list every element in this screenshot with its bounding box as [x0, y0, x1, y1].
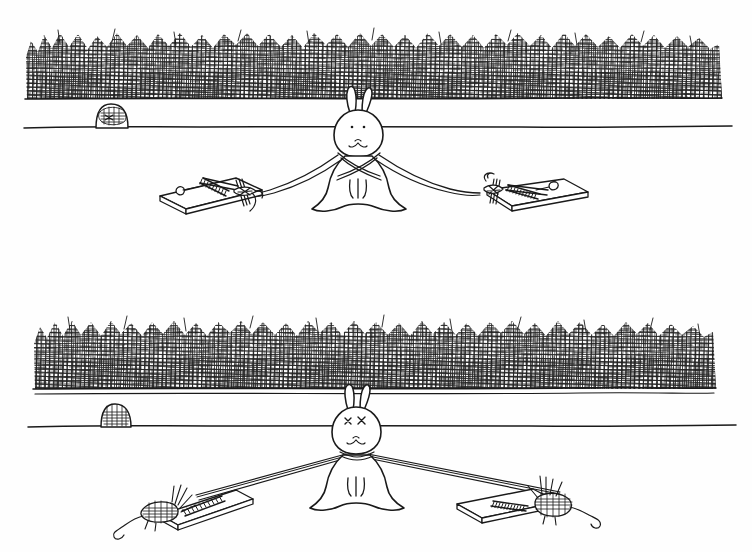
rabbit-ear-left [347, 87, 356, 113]
hedge-band [28, 316, 728, 392]
trap-bait [176, 187, 184, 195]
rabbit-eye-right [363, 126, 366, 129]
rabbit-ear-left [345, 385, 354, 410]
cartoon-drawing [0, 0, 752, 552]
trap-bait [549, 182, 558, 190]
rabbit-eye-left [351, 126, 354, 129]
rabbit-head [332, 407, 381, 454]
rabbit-head [334, 110, 383, 157]
illustration-canvas [0, 0, 752, 552]
